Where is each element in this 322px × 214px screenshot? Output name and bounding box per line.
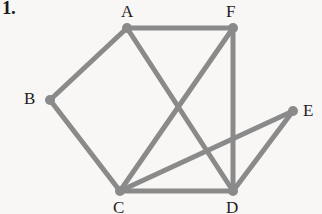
vertex-label-b: B bbox=[24, 90, 35, 107]
vertex-label-a: A bbox=[121, 3, 133, 20]
vertex-label-d: D bbox=[226, 199, 238, 214]
graph-vertex-a bbox=[122, 23, 132, 33]
graph-canvas bbox=[0, 0, 322, 214]
graph-vertex-e bbox=[288, 106, 298, 116]
diagram-page: 1. ABCDEF bbox=[0, 0, 322, 214]
graph-vertex-b bbox=[45, 95, 55, 105]
graph-vertex-d bbox=[228, 186, 238, 196]
graph-vertex-f bbox=[228, 23, 238, 33]
graph-edge-a-b bbox=[50, 28, 127, 100]
graph-vertex-c bbox=[115, 186, 125, 196]
vertex-layer bbox=[45, 23, 298, 196]
vertex-label-c: C bbox=[113, 199, 124, 214]
vertex-label-f: F bbox=[226, 3, 235, 20]
vertex-label-e: E bbox=[303, 102, 313, 119]
edge-layer bbox=[50, 28, 293, 191]
graph-edge-b-c bbox=[50, 100, 120, 191]
